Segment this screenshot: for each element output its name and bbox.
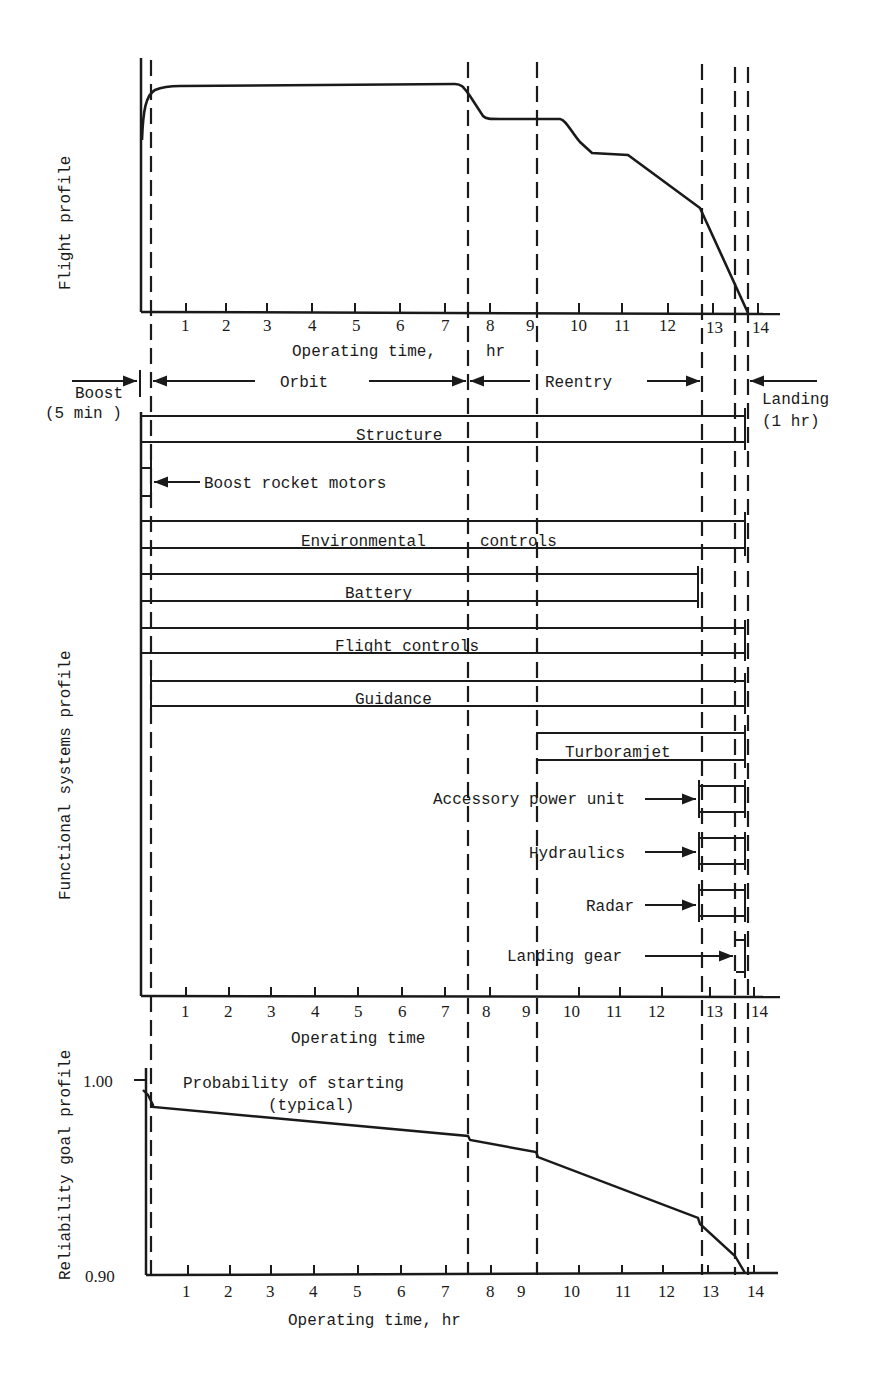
system-label-battery: Battery bbox=[345, 585, 413, 603]
tick-label: 10 bbox=[563, 1002, 580, 1021]
bar-flight-controls: Flight controls bbox=[141, 620, 745, 661]
functional-systems-panel: Structure Boost rocket motors Environmen… bbox=[57, 408, 780, 1048]
tick-label: 12 bbox=[648, 1002, 665, 1021]
tick-label: 2 bbox=[224, 1002, 233, 1021]
bar-boost-rocket-motors: Boost rocket motors bbox=[141, 460, 386, 504]
functional-x-label: Operating time bbox=[291, 1030, 425, 1048]
mission-profile-figure: 1 2 3 4 5 6 7 8 9 10 11 12 13 14 Operati… bbox=[0, 0, 886, 1384]
tick-label: 14 bbox=[747, 1282, 765, 1301]
reliability-panel: 1.00 0.90 Probability of starting (typic… bbox=[57, 1050, 778, 1330]
bar-battery: Battery bbox=[141, 566, 698, 608]
tick-label: 11 bbox=[606, 1002, 622, 1021]
tick-label: 6 bbox=[398, 1002, 407, 1021]
reliability-y-label: Reliability goal profile bbox=[57, 1050, 75, 1280]
tick-label: 14 bbox=[751, 1002, 769, 1021]
tick-label: 8 bbox=[486, 316, 495, 335]
tick-label: 5 bbox=[354, 1002, 363, 1021]
bar-structure: Structure bbox=[141, 408, 745, 450]
reliability-x-label: Operating time, hr bbox=[288, 1312, 461, 1330]
tick-label: 6 bbox=[397, 1282, 406, 1301]
phase-boost-duration: (5 min ) bbox=[45, 405, 122, 423]
reliability-annotation-2: (typical) bbox=[268, 1097, 354, 1115]
tick-label: 11 bbox=[614, 316, 630, 335]
phase-landing-label: Landing bbox=[762, 391, 829, 409]
tick-label: 3 bbox=[266, 1282, 275, 1301]
bar-landing-gear: Landing gear bbox=[507, 934, 745, 978]
system-label-turboramjet: Turboramjet bbox=[565, 744, 671, 762]
system-label-landing-gear: Landing gear bbox=[507, 948, 622, 966]
flight-x-label: Operating time, bbox=[292, 343, 436, 361]
system-label-guidance: Guidance bbox=[355, 691, 432, 709]
tick-label: 4 bbox=[311, 1002, 320, 1021]
system-label-boost-rocket-motors: Boost rocket motors bbox=[204, 475, 386, 493]
system-label-radar: Radar bbox=[586, 898, 634, 916]
flight-y-label: Flight profile bbox=[57, 156, 75, 290]
tick-label: 1 bbox=[181, 1002, 190, 1021]
tick-label: 12 bbox=[658, 1282, 675, 1301]
reliability-curve bbox=[143, 1090, 745, 1273]
tick-label: 13 bbox=[706, 1002, 723, 1021]
reliability-annotation-1: Probability of starting bbox=[183, 1075, 404, 1093]
tick-label: 9 bbox=[517, 1282, 526, 1301]
tick-label: 13 bbox=[706, 318, 723, 337]
system-label-environmental: Environmental bbox=[301, 533, 426, 551]
phase-orbit-label: Orbit bbox=[280, 374, 328, 392]
tick-label: 7 bbox=[441, 1002, 450, 1021]
system-label-structure: Structure bbox=[356, 427, 442, 445]
tick-label: 14 bbox=[752, 318, 770, 337]
bar-turboramjet: Turboramjet bbox=[536, 725, 745, 768]
phase-reentry-label: Reentry bbox=[545, 374, 613, 392]
tick-label: 9 bbox=[526, 316, 535, 335]
tick-label: 1 bbox=[182, 1282, 191, 1301]
tick-label: 7 bbox=[441, 1282, 450, 1301]
y-tick-1-00: 1.00 bbox=[83, 1072, 113, 1091]
bar-hydraulics: Hydraulics bbox=[529, 832, 745, 870]
bar-radar: Radar bbox=[586, 884, 745, 922]
bar-guidance: Guidance bbox=[151, 673, 745, 714]
flight-profile-panel: 1 2 3 4 5 6 7 8 9 10 11 12 13 14 Operati… bbox=[57, 58, 780, 361]
flight-profile-curve bbox=[142, 84, 748, 313]
tick-label: 5 bbox=[353, 1282, 362, 1301]
tick-label: 2 bbox=[224, 1282, 233, 1301]
phase-landing-duration: (1 hr) bbox=[762, 413, 820, 431]
tick-label: 5 bbox=[352, 316, 361, 335]
tick-label: 10 bbox=[570, 316, 587, 335]
system-label-accessory-power-unit: Accessory power unit bbox=[433, 791, 625, 809]
tick-label: 8 bbox=[482, 1002, 491, 1021]
bar-environmental-controls: Environmental controls bbox=[141, 512, 745, 556]
phase-boost-label: Boost bbox=[75, 385, 123, 403]
phase-labels: Boost (5 min ) Orbit Reentry Landing (1 … bbox=[45, 370, 829, 431]
tick-label: 4 bbox=[308, 316, 317, 335]
tick-label: 8 bbox=[486, 1282, 495, 1301]
tick-label: 12 bbox=[659, 316, 676, 335]
system-label-controls: controls bbox=[480, 533, 557, 551]
tick-label: 4 bbox=[309, 1282, 318, 1301]
tick-label: 11 bbox=[615, 1282, 631, 1301]
flight-x-unit: hr bbox=[486, 343, 505, 361]
y-tick-0-90: 0.90 bbox=[85, 1267, 115, 1286]
tick-label: 6 bbox=[396, 316, 405, 335]
functional-y-label: Functional systems profile bbox=[57, 650, 75, 900]
system-label-flight-controls: Flight controls bbox=[335, 638, 479, 656]
bar-accessory-power-unit: Accessory power unit bbox=[433, 780, 745, 818]
tick-label: 7 bbox=[441, 316, 450, 335]
tick-label: 3 bbox=[267, 1002, 276, 1021]
tick-label: 2 bbox=[222, 316, 231, 335]
tick-label: 13 bbox=[702, 1282, 719, 1301]
system-label-hydraulics: Hydraulics bbox=[529, 845, 625, 863]
tick-label: 9 bbox=[522, 1002, 531, 1021]
tick-label: 1 bbox=[181, 316, 190, 335]
tick-label: 3 bbox=[263, 316, 272, 335]
tick-label: 10 bbox=[563, 1282, 580, 1301]
